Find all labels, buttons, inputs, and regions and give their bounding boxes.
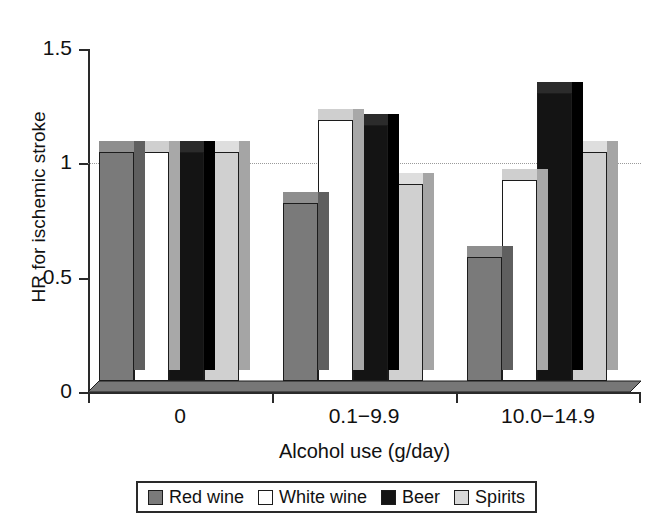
bar-top — [467, 246, 502, 257]
spirits-swatch-icon — [454, 490, 469, 505]
bar-side — [537, 169, 548, 370]
bar-side — [388, 114, 399, 370]
x-tick-label-2: 10.0−14.9 — [501, 404, 595, 428]
y-tick-label-0: 0 — [60, 379, 72, 403]
bar-red-wine-cat-1[interactable] — [283, 203, 318, 381]
bar-top — [537, 82, 572, 93]
legend-item-red-wine[interactable]: Red wine — [148, 487, 244, 508]
bar-top — [99, 141, 134, 152]
y-axis-title: HR for ischemic stroke — [28, 82, 50, 332]
bar-top — [502, 169, 537, 180]
y-tick-label-0.5: 0.5 — [43, 265, 72, 289]
red-wine-swatch-icon — [148, 490, 163, 505]
bar-side — [502, 246, 513, 370]
bar-chart-figure: HR for ischemic stroke 1.5 1 0.5 0 — [0, 0, 657, 529]
bar-side — [423, 173, 434, 370]
bar-red-wine-cat-0[interactable] — [99, 152, 134, 381]
white-wine-swatch-icon — [258, 490, 273, 505]
bar-side — [239, 141, 250, 370]
chart-legend: Red wine White wine Beer Spirits — [136, 481, 537, 513]
bar-side — [607, 141, 618, 370]
bar-side — [572, 82, 583, 370]
legend-item-white-wine[interactable]: White wine — [258, 487, 367, 508]
plot-area: 1.5 1 0.5 0 — [88, 42, 641, 394]
bar-face — [283, 203, 318, 381]
beer-swatch-icon — [381, 490, 396, 505]
legend-label-red-wine: Red wine — [169, 487, 244, 508]
bar-top — [283, 192, 318, 203]
legend-item-spirits[interactable]: Spirits — [454, 487, 525, 508]
bar-top — [318, 109, 353, 120]
legend-item-beer[interactable]: Beer — [381, 487, 440, 508]
legend-label-white-wine: White wine — [279, 487, 367, 508]
x-tick-labels: 0 0.1−9.9 10.0−14.9 — [88, 404, 641, 434]
y-tick-label-1: 1 — [60, 150, 72, 174]
bar-side — [204, 141, 215, 370]
legend-label-spirits: Spirits — [475, 487, 525, 508]
x-tick-label-1: 0.1−9.9 — [329, 404, 400, 428]
x-axis-title: Alcohol use (g/day) — [88, 440, 641, 463]
bar-face — [99, 152, 134, 381]
bar-side — [353, 109, 364, 370]
x-tick-label-0: 0 — [174, 404, 186, 428]
bar-side — [318, 192, 329, 370]
bar-side — [134, 141, 145, 370]
bar-red-wine-cat-2[interactable] — [467, 257, 502, 381]
bar-face — [467, 257, 502, 381]
bar-side — [169, 141, 180, 370]
legend-label-beer: Beer — [402, 487, 440, 508]
y-tick-label-1.5: 1.5 — [43, 36, 72, 60]
bars-layer — [88, 42, 641, 394]
